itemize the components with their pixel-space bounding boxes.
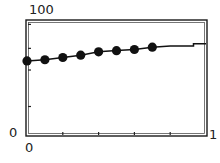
data-point <box>112 46 121 55</box>
data-point <box>76 51 85 60</box>
plot-frame <box>26 20 207 136</box>
data-point <box>40 55 49 64</box>
data-series <box>22 43 206 66</box>
data-point <box>58 53 67 62</box>
data-point <box>130 45 139 54</box>
y-axis-min-label: 0 <box>9 126 17 139</box>
line-chart <box>0 0 220 163</box>
axis-ticks <box>28 24 170 135</box>
x-axis-min-label: 0 <box>25 141 33 154</box>
y-axis-max-label: 100 <box>29 3 54 16</box>
data-point <box>94 47 103 56</box>
x-axis-max-label: 1 <box>209 128 217 141</box>
data-point <box>22 56 31 65</box>
